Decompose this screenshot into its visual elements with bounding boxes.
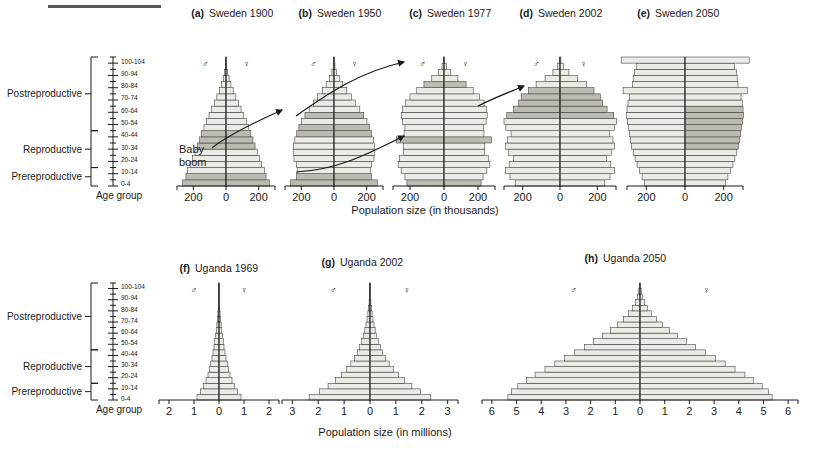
x-axis-d: 2000200 (504, 186, 616, 203)
bar-male (399, 155, 444, 161)
x-tick-label: 200 (469, 191, 487, 203)
bar-male (632, 82, 685, 88)
bar-male (637, 161, 685, 167)
bar-male (629, 94, 685, 100)
bar-male (403, 143, 444, 149)
bar-female (219, 389, 238, 395)
bar-female (334, 131, 372, 137)
panel-title-e: Sweden 2050 (655, 7, 719, 19)
male-symbol-a: ♂ (202, 59, 209, 69)
female-symbol-a: ♀ (243, 59, 250, 69)
bar-female (444, 149, 485, 155)
x-tick-label: 0 (682, 191, 688, 203)
bar-male (628, 100, 685, 106)
bar-male (197, 394, 219, 400)
bar-male (536, 82, 560, 88)
x-tick-label: 200 (249, 191, 267, 203)
bar-male (514, 106, 560, 112)
bar-female (334, 88, 347, 94)
bar-female (226, 149, 257, 155)
bar-male (632, 143, 685, 149)
bar-female (219, 394, 241, 400)
bar-female (219, 367, 229, 373)
bracket-postreproductive: Postreproductive (7, 283, 98, 350)
bar-male (623, 88, 685, 94)
bar-male (222, 82, 226, 88)
x-tick-label: 200 (513, 191, 531, 203)
population-pyramid-figure: 0-410-1420-2430-3440-4450-5460-6470-7480… (0, 0, 822, 453)
bar-female (219, 361, 227, 367)
male-symbol-d: ♂ (533, 59, 540, 69)
bar-male (360, 344, 370, 350)
age-tick-label: 100-104 (121, 283, 145, 290)
bar-female (685, 94, 741, 100)
age-tick-label: 70-74 (121, 317, 138, 324)
x-tick-label: 200 (637, 191, 655, 203)
age-tick-label: 30-34 (121, 144, 138, 151)
bar-male (627, 112, 685, 118)
bar-male (217, 94, 226, 100)
bar-male (204, 383, 220, 389)
bar-female (226, 161, 262, 167)
bar-male (297, 131, 334, 137)
bar-male (322, 88, 334, 94)
figure-canvas: 0-410-1420-2430-3440-4450-5460-6470-7480… (0, 0, 822, 453)
x-axis-h: 6543210123456 (482, 400, 798, 417)
bar-female (560, 112, 614, 118)
bar-male (204, 125, 226, 131)
bar-male (216, 333, 220, 339)
bar-female (560, 88, 594, 94)
bar-female (560, 131, 609, 137)
bar-female (560, 149, 611, 155)
bracket-reproductive: Reproductive (23, 131, 98, 168)
male-symbol-f: ♂ (190, 285, 197, 295)
bar-female (640, 389, 768, 395)
bar-female (219, 339, 223, 345)
bar-female (685, 168, 730, 174)
bar-male (296, 161, 334, 167)
arrow-c-to-d (478, 86, 524, 106)
x-tick-label: 0 (223, 191, 229, 203)
bar-male (320, 389, 370, 395)
bar-male (183, 180, 226, 186)
panel-label-f: (f) (180, 262, 191, 274)
x-tick-label: 0 (441, 191, 447, 203)
bar-male (405, 125, 444, 131)
bar-female (560, 125, 615, 131)
age-tick-label: 90-94 (121, 70, 138, 77)
bar-male (432, 75, 444, 81)
bar-male (202, 131, 227, 137)
x-tick-label: 3 (289, 405, 295, 417)
bar-female (226, 155, 259, 161)
bar-male (635, 155, 685, 161)
bar-female (370, 367, 393, 373)
bar-female (444, 168, 487, 174)
bar-male (354, 355, 370, 361)
x-axis-b: 2000200 (285, 186, 383, 203)
bar-male (510, 174, 560, 180)
bar-female (370, 372, 398, 378)
age-tick-label: 20-24 (121, 372, 138, 379)
bar-female (370, 361, 389, 367)
bar-male (610, 328, 640, 334)
bar-female (226, 168, 264, 174)
bar-male (302, 118, 334, 124)
bar-female (560, 118, 616, 124)
bar-female (444, 143, 485, 149)
bar-female (444, 100, 484, 106)
bar-female (685, 112, 743, 118)
bar-female (219, 378, 232, 384)
age-tick-label: 90-94 (121, 294, 138, 301)
bar-female (640, 394, 772, 400)
bar-female (334, 168, 370, 174)
x-tick-label: 2 (419, 405, 425, 417)
bar-female (334, 94, 351, 100)
bar-female (370, 383, 412, 389)
bar-male (633, 305, 640, 311)
bar-female (219, 344, 224, 350)
bar-male (396, 137, 444, 143)
bar-male (309, 106, 334, 112)
x-tick-label: 200 (588, 191, 606, 203)
bar-male (575, 350, 640, 356)
x-tick-label: 2 (686, 405, 692, 417)
